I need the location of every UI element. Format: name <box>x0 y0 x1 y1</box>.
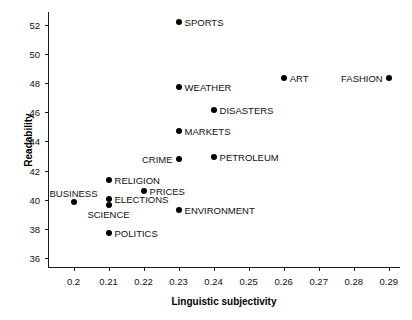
x-tick-mark <box>249 267 250 271</box>
y-tick-label: 42 <box>29 165 40 176</box>
x-tick-label: 0.26 <box>274 276 293 287</box>
data-point[interactable] <box>176 156 182 162</box>
data-point[interactable] <box>176 207 182 213</box>
data-point-label: DISASTERS <box>220 105 274 116</box>
data-point[interactable] <box>281 75 287 81</box>
x-tick-mark <box>179 267 180 271</box>
y-tick-mark <box>45 141 49 142</box>
scatter-plot-figure: Readability Linguistic subjectivity 0.20… <box>0 0 412 320</box>
data-point-label: ENVIRONMENT <box>185 204 255 215</box>
x-tick-mark <box>354 267 355 271</box>
data-point-label: SCIENCE <box>87 209 129 220</box>
y-tick-mark <box>45 229 49 230</box>
x-tick-label: 0.21 <box>99 276 118 287</box>
x-tick-label: 0.2 <box>67 276 80 287</box>
x-tick-mark <box>74 267 75 271</box>
y-tick-mark <box>45 25 49 26</box>
data-point[interactable] <box>176 84 182 90</box>
x-tick-label: 0.29 <box>379 276 398 287</box>
data-point[interactable] <box>106 196 112 202</box>
y-tick-mark <box>45 200 49 201</box>
x-tick-label: 0.22 <box>134 276 153 287</box>
data-point-label: SPORTS <box>185 17 224 28</box>
y-tick-mark <box>45 83 49 84</box>
y-tick-mark <box>45 112 49 113</box>
y-tick-mark <box>45 258 49 259</box>
data-point-label: MARKETS <box>185 126 231 137</box>
data-point[interactable] <box>386 75 392 81</box>
data-point[interactable] <box>106 202 112 208</box>
data-point[interactable] <box>71 199 77 205</box>
data-point-label: WEATHER <box>185 81 232 92</box>
data-point-label: CRIME <box>142 153 173 164</box>
x-tick-mark <box>319 267 320 271</box>
data-point-label: ART <box>290 73 309 84</box>
y-tick-label: 46 <box>29 107 40 118</box>
y-tick-label: 48 <box>29 78 40 89</box>
data-point[interactable] <box>211 154 217 160</box>
x-tick-mark <box>214 267 215 271</box>
data-point[interactable] <box>176 128 182 134</box>
data-point[interactable] <box>106 177 112 183</box>
x-tick-label: 0.24 <box>204 276 223 287</box>
data-point[interactable] <box>176 19 182 25</box>
data-point-label: ELECTIONS <box>115 193 169 204</box>
plot-area: 0.20.210.220.230.240.250.260.270.280.29 … <box>48 12 400 268</box>
data-point[interactable] <box>106 230 112 236</box>
data-point[interactable] <box>211 107 217 113</box>
y-tick-mark <box>45 171 49 172</box>
y-tick-label: 52 <box>29 20 40 31</box>
y-tick-label: 44 <box>29 136 40 147</box>
y-tick-mark <box>45 54 49 55</box>
x-axis-title: Linguistic subjectivity <box>48 296 400 307</box>
y-tick-label: 40 <box>29 194 40 205</box>
y-tick-label: 36 <box>29 252 40 263</box>
data-point-label: FASHION <box>341 73 383 84</box>
x-tick-label: 0.25 <box>239 276 258 287</box>
x-tick-label: 0.23 <box>169 276 188 287</box>
x-tick-mark <box>144 267 145 271</box>
x-tick-mark <box>389 267 390 271</box>
x-tick-mark <box>284 267 285 271</box>
data-point-label: RELIGION <box>115 175 160 186</box>
data-point-label: POLITICS <box>115 228 158 239</box>
data-point-label: PETROLEUM <box>220 151 279 162</box>
y-tick-label: 38 <box>29 223 40 234</box>
data-point-label: BUSINESS <box>49 188 97 199</box>
y-tick-label: 50 <box>29 49 40 60</box>
x-tick-mark <box>109 267 110 271</box>
x-tick-label: 0.27 <box>309 276 328 287</box>
x-tick-label: 0.28 <box>344 276 363 287</box>
